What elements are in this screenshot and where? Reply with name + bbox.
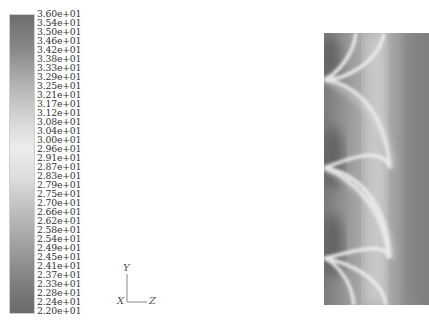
y-axis-label: Y [123,262,130,273]
colorbar-tick-labels: 3.60e+013.54e+013.50e+013.46e+013.42e+01… [37,9,107,321]
contour-field [324,33,429,305]
contour-plot [324,33,429,305]
colorbar [9,14,35,314]
z-axis-label: Z [149,295,156,306]
axis-triad: Y X Z [115,262,175,312]
colorbar-tick-label: 2.20e+01 [37,306,81,316]
x-axis-label: X [117,295,124,306]
